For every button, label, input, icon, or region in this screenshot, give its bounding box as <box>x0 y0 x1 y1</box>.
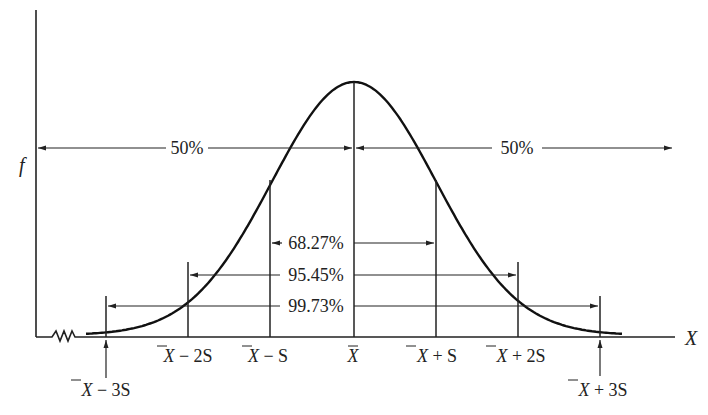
tick-label-minus-3s: X − 3S <box>71 380 131 400</box>
tick-label-mean: X <box>347 346 360 366</box>
x-axis-label: X <box>684 327 698 349</box>
y-axis-label: f <box>19 154 27 177</box>
half-left-label: 50% <box>171 138 204 158</box>
svg-text:X + 3S: X + 3S <box>577 380 627 400</box>
svg-text:X − 2S: X − 2S <box>162 346 212 366</box>
two-sd-label: 95.45% <box>288 265 344 285</box>
tick-label-minus-1s: X − S <box>242 346 288 366</box>
svg-text:X − 3S: X − 3S <box>80 380 130 400</box>
svg-text:X + 2S: X + 2S <box>495 346 545 366</box>
svg-text:X: X <box>347 346 360 366</box>
normal-distribution-diagram: 50% 50% 68.27% 95.45% 99.73% f X X − 2S … <box>0 0 708 415</box>
tick-label-plus-1s: X + S <box>406 346 457 366</box>
three-sd-label: 99.73% <box>288 296 344 316</box>
x-axis <box>36 331 675 341</box>
tick-label-plus-2s: X + 2S <box>486 346 546 366</box>
one-sd-label: 68.27% <box>288 233 344 253</box>
half-right-label: 50% <box>501 138 534 158</box>
svg-text:X + S: X + S <box>416 346 457 366</box>
tick-label-minus-2s: X − 2S <box>157 346 213 366</box>
tick-label-plus-3s: X + 3S <box>568 380 628 400</box>
svg-text:X − S: X − S <box>247 346 288 366</box>
